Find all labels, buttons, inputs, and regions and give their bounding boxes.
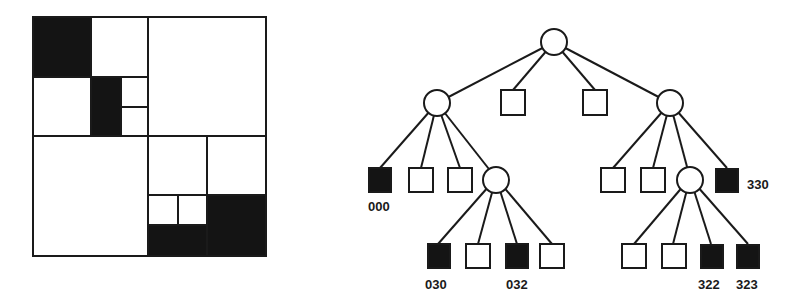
leaf-30-white-icon xyxy=(601,168,625,192)
black-region-032 xyxy=(91,107,121,136)
label-030: 030 xyxy=(425,277,447,292)
black-region-323 xyxy=(178,225,207,256)
leaf-321-white-icon xyxy=(662,244,686,268)
black-region-00 xyxy=(33,17,91,77)
node-03-icon xyxy=(483,167,509,193)
quadtree-grid xyxy=(33,17,266,256)
leaf-33-black-icon xyxy=(716,169,738,192)
leaf-1-white-icon xyxy=(501,90,525,115)
label-322: 322 xyxy=(698,277,720,292)
leaf-032-black-icon xyxy=(506,244,528,268)
leaf-00-black-icon xyxy=(369,168,391,192)
leaf-031-white-icon xyxy=(466,244,490,268)
leaf-322-black-icon xyxy=(701,245,723,268)
leaf-320-white-icon xyxy=(622,244,646,268)
quadtree-tree xyxy=(369,29,759,268)
leaf-030-black-icon xyxy=(428,244,450,268)
quadtree-figure: 000 330 030 032 322 323 xyxy=(0,0,791,308)
leaf-323-black-icon xyxy=(737,245,759,268)
black-region-322 xyxy=(148,225,178,256)
leaf-02-white-icon xyxy=(448,168,472,192)
black-region-030 xyxy=(91,77,121,107)
label-032: 032 xyxy=(506,277,528,292)
label-330: 330 xyxy=(747,177,769,192)
leaf-01-white-icon xyxy=(409,168,433,192)
leaf-2-white-icon xyxy=(583,90,607,115)
leaf-033-white-icon xyxy=(540,244,564,268)
node-32-icon xyxy=(677,167,703,193)
node-3-icon xyxy=(657,90,683,116)
tree-edges xyxy=(380,42,748,244)
node-0-icon xyxy=(424,90,450,116)
label-000: 000 xyxy=(368,199,390,214)
root-node-icon xyxy=(541,29,567,55)
label-323: 323 xyxy=(736,277,758,292)
leaf-31-white-icon xyxy=(641,168,665,192)
black-region-33 xyxy=(207,195,266,256)
